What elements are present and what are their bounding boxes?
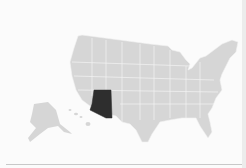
hawaii bbox=[69, 109, 91, 126]
bottom-divider bbox=[6, 164, 242, 165]
alaska bbox=[28, 102, 72, 142]
us-map bbox=[0, 0, 246, 168]
state-arizona bbox=[90, 90, 112, 118]
page-edge bbox=[242, 0, 246, 168]
